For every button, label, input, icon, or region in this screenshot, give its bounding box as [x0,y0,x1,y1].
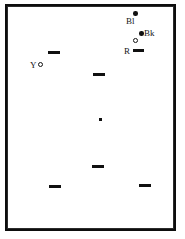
dash-marker-bottom-left [49,185,61,188]
dash-marker-mid-upper [93,73,105,76]
data-point-bk [139,31,144,36]
figure-container: Bl Bk R Y [0,0,185,239]
dash-marker-mid-lower [92,165,104,168]
data-point-center [99,118,102,121]
point-label-bl: Bl [126,17,135,26]
dash-marker-bottom-right [139,184,151,187]
dash-marker-upper-left [48,51,60,54]
point-label-y: Y [30,61,37,70]
data-point-bl [133,11,138,16]
point-label-r: R [124,47,130,56]
dash-marker-upper-right [133,49,144,52]
point-label-bk: Bk [144,29,155,38]
plot-frame: Bl Bk R Y [5,4,176,231]
data-point-y [38,62,43,67]
data-point-r [133,38,138,43]
